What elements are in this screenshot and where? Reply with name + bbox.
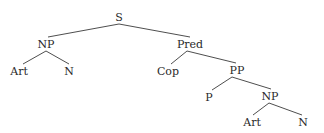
edge-np2-art2	[253, 103, 269, 115]
node-pred: Pred	[177, 39, 203, 50]
node-pp: PP	[230, 65, 245, 76]
node-s: S	[115, 12, 123, 23]
node-cop: Cop	[157, 66, 179, 77]
edge-pred-pp	[187, 51, 236, 63]
edge-pp-np2	[232, 77, 271, 89]
edge-np1-art1	[23, 51, 46, 64]
edge-np2-n2	[269, 103, 302, 115]
node-np: NP	[37, 39, 54, 50]
edge-pp-p	[212, 77, 232, 90]
node-n: N	[64, 66, 74, 77]
edge-s-np1	[48, 24, 119, 37]
node-art-inner: Art	[243, 117, 261, 128]
edge-np1-n1	[46, 51, 69, 64]
node-np-inner: NP	[261, 91, 278, 102]
node-n-inner: N	[298, 117, 308, 128]
node-p: P	[205, 92, 212, 103]
edge-s-pred	[119, 24, 190, 37]
node-art: Art	[10, 66, 28, 77]
edge-pred-cop	[171, 51, 187, 64]
